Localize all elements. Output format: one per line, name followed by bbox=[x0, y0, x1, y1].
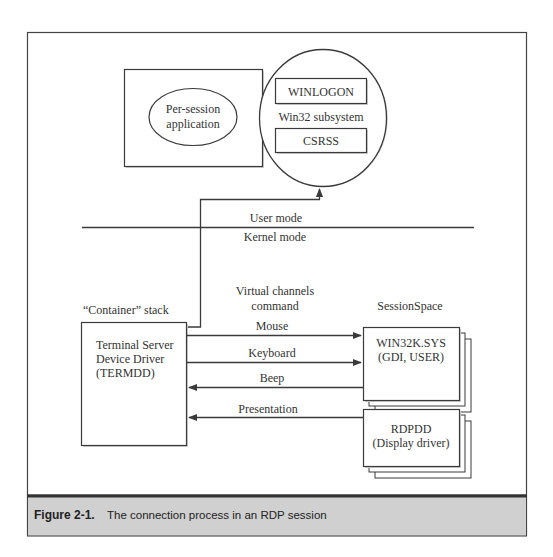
winlogon-label: WINLOGON bbox=[288, 85, 354, 99]
virtual-channels-label-2: command bbox=[251, 299, 298, 313]
per-session-label-2: application bbox=[166, 117, 219, 131]
termdd-label-2: Device Driver bbox=[96, 352, 164, 366]
beep-label: Beep bbox=[260, 371, 285, 385]
kernel-mode-label: Kernel mode bbox=[244, 230, 306, 244]
user-process-box: Per-session application bbox=[125, 70, 265, 169]
diagram-canvas: Per-session application WINLOGON Win32 s… bbox=[0, 0, 553, 557]
virtual-channels-label-1: Virtual channels bbox=[236, 284, 315, 298]
win32k-stack: WIN32K.SYS (GDI, USER) bbox=[364, 328, 472, 413]
rdpdd-stack: RDPDD (Display driver) bbox=[364, 410, 472, 479]
win32-subsystem-circle: WINLOGON Win32 subsystem CSRSS bbox=[260, 50, 389, 188]
session-space-label: SessionSpace bbox=[377, 299, 442, 313]
presentation-label: Presentation bbox=[238, 402, 297, 416]
per-session-label-1: Per-session bbox=[166, 102, 220, 116]
figure-caption: Figure 2-1. The connection process in an… bbox=[27, 495, 527, 536]
figure-label: Figure 2-1. bbox=[34, 508, 95, 522]
user-mode-label: User mode bbox=[250, 211, 302, 225]
csrss-label: CSRSS bbox=[303, 134, 339, 148]
win32k-label-1: WIN32K.SYS bbox=[376, 336, 446, 350]
rdpdd-label-1: RDPDD bbox=[391, 422, 432, 436]
container-stack-label: “Container” stack bbox=[83, 303, 169, 317]
win32-subsystem-label: Win32 subsystem bbox=[278, 110, 364, 124]
keyboard-label: Keyboard bbox=[248, 346, 295, 360]
win32k-label-2: (GDI, USER) bbox=[378, 350, 444, 364]
rdpdd-label-2: (Display driver) bbox=[373, 436, 450, 450]
mouse-label: Mouse bbox=[256, 319, 289, 333]
figure-caption-text: The connection process in an RDP session bbox=[107, 509, 327, 521]
termdd-box: Terminal Server Device Driver (TERMDD) bbox=[82, 323, 189, 448]
termdd-label-1: Terminal Server bbox=[96, 338, 173, 352]
termdd-label-3: (TERMDD) bbox=[96, 366, 155, 380]
